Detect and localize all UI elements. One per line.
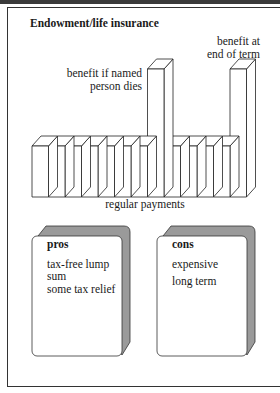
- payment-block-side: [115, 136, 124, 197]
- payment-block-side: [197, 136, 206, 197]
- pros-card: [30, 222, 135, 372]
- payment-block-side: [49, 136, 58, 197]
- payment-block: [32, 146, 49, 197]
- payment-block-side: [181, 136, 190, 197]
- pros-title: pros: [47, 238, 69, 250]
- payment-block-side: [214, 136, 223, 197]
- cons-title: cons: [172, 238, 194, 250]
- payment-block-side: [148, 136, 157, 197]
- cons-card: [155, 222, 260, 372]
- pros-item: some tax relief: [47, 283, 117, 295]
- pros-item: tax-free lump sum: [47, 258, 117, 282]
- cons-item: long term: [172, 275, 242, 287]
- payment-block-side: [230, 136, 239, 197]
- payment-block-side: [98, 136, 107, 197]
- death-benefit-bar-side: [164, 59, 173, 197]
- regular-payments-label: regular payments: [80, 198, 210, 211]
- cons-item: expensive: [172, 258, 242, 270]
- payment-block-side: [131, 136, 140, 197]
- term-benefit-bar-side: [247, 59, 256, 197]
- payment-block-side: [82, 136, 91, 197]
- payment-block-side: [65, 136, 74, 197]
